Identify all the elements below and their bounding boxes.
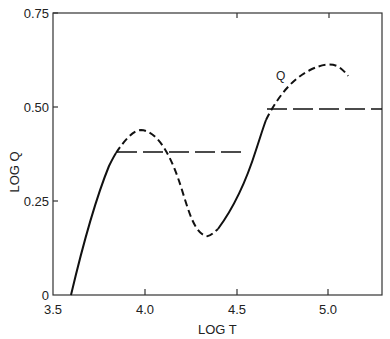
y-axis-label: LOG Q <box>7 151 22 192</box>
y-tick-label: 0.75 <box>24 6 49 21</box>
x-tick-label: 4.5 <box>228 302 246 317</box>
x-tick-label: 4.0 <box>136 302 154 317</box>
y-tick-label: 0.25 <box>24 194 49 209</box>
x-axis <box>145 13 329 295</box>
plateau-lines <box>117 109 382 152</box>
x-tick-label: 5.0 <box>319 302 337 317</box>
y-tick-label: 0.50 <box>24 100 49 115</box>
curve-q <box>71 65 348 295</box>
y-axis <box>53 13 58 201</box>
chart: 0.75 0.50 0.25 0 3.5 4.0 4.5 5.0 LOG T L… <box>0 0 390 339</box>
y-tick-label: 0 <box>42 288 49 303</box>
plot-frame <box>53 13 382 295</box>
curve-label-q: Q <box>276 69 285 83</box>
x-tick-label: 3.5 <box>44 302 62 317</box>
x-axis-label: LOG T <box>198 322 237 337</box>
